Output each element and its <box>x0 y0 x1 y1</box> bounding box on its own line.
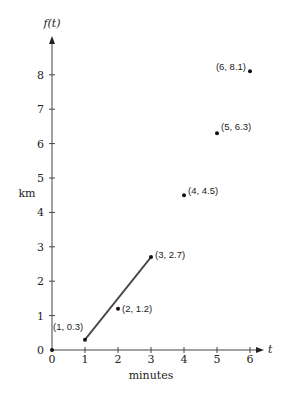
data-point <box>116 307 120 311</box>
y-tick-label: 6 <box>37 138 44 151</box>
y-tick-label: 1 <box>37 310 44 323</box>
x-tick-label: 1 <box>82 353 89 366</box>
y-tick-label: 5 <box>37 172 44 185</box>
x-tick-label: 4 <box>181 353 188 366</box>
y-tick-label: 0 <box>37 344 44 357</box>
y-axis-arrow-icon <box>49 36 55 44</box>
x-tick-label: 3 <box>148 353 155 366</box>
data-point-label: (2, 1.2) <box>122 303 152 314</box>
data-point <box>149 255 153 259</box>
chart: 0123456012345678 (1, 0.3)(2, 1.2)(3, 2.7… <box>0 0 285 397</box>
x-tick-label: 6 <box>247 353 254 366</box>
y-tick-label: 7 <box>37 103 44 116</box>
data-point-label: (4, 4.5) <box>188 185 218 196</box>
y-tick-label: 2 <box>37 275 44 288</box>
origin-point <box>50 348 54 352</box>
axes <box>49 36 264 353</box>
x-axis-label: minutes <box>129 369 174 382</box>
y-tick-label: 8 <box>37 69 44 82</box>
y-axis-name: f(t) <box>42 17 60 30</box>
x-axis-arrow-icon <box>256 347 264 353</box>
data-point-label: (6, 8.1) <box>216 61 246 72</box>
y-tick-label: 4 <box>37 206 44 219</box>
y-axis-label: km <box>18 187 36 200</box>
data-point <box>83 338 87 342</box>
line-segment <box>85 257 151 340</box>
x-tick-label: 5 <box>214 353 221 366</box>
data-point <box>248 69 252 73</box>
x-tick-label: 0 <box>49 353 56 366</box>
data-point <box>215 131 219 135</box>
x-axis-name: t <box>268 343 273 356</box>
x-tick-label: 2 <box>115 353 122 366</box>
data-point-label: (3, 2.7) <box>155 249 185 260</box>
y-tick-label: 3 <box>37 241 44 254</box>
data-point <box>182 193 186 197</box>
data-point-label: (5, 6.3) <box>221 121 251 132</box>
data-point-label: (1, 0.3) <box>53 321 83 332</box>
plot-area: (1, 0.3)(2, 1.2)(3, 2.7)(4, 4.5)(5, 6.3)… <box>50 61 252 352</box>
